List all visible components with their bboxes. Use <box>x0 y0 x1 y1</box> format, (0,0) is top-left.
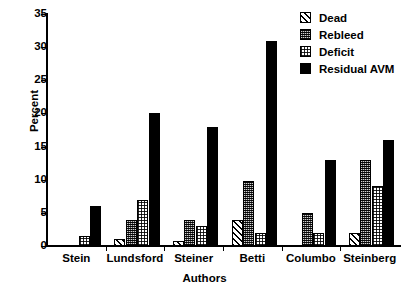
y-axis-tick-label-wrap: 20 <box>0 107 47 118</box>
legend-item-residual-avm[interactable]: Residual AVM <box>300 61 394 76</box>
y-axis-tick-label: 10 <box>13 174 47 185</box>
y-axis-tick-label: 15 <box>13 141 47 152</box>
y-axis-tick-label: 20 <box>13 107 47 118</box>
legend-swatch-icon-deficit <box>300 46 311 57</box>
bar-deficit-columbo <box>313 233 324 246</box>
bar-deficit-steiner <box>196 226 207 246</box>
bar-residual-avm-steiner <box>207 127 218 246</box>
bar-residual-avm-betti <box>266 41 277 246</box>
x-axis-tick <box>282 247 283 251</box>
legend-swatch-icon-rebleed <box>300 29 311 40</box>
bar-dead-lundsford <box>114 239 125 246</box>
x-axis-label-steinberg: Steinberg <box>334 252 405 264</box>
bar-rebleed-betti <box>243 181 254 246</box>
bar-rebleed-steinberg <box>360 160 371 246</box>
y-axis-tick-label: 35 <box>13 8 47 19</box>
y-axis-tick-label-wrap: 35 <box>0 8 47 19</box>
legend-label: Rebleed <box>319 29 364 41</box>
bar-residual-avm-lundsford <box>149 113 160 246</box>
y-axis-tick-label-wrap: 0 <box>0 240 47 251</box>
legend-swatch-icon-residual-avm <box>300 63 311 74</box>
y-axis-tick-label: 30 <box>13 41 47 52</box>
y-axis-tick-label-wrap: 5 <box>0 207 47 218</box>
x-axis-title: Authors <box>0 272 409 284</box>
y-axis-tick-label: 5 <box>13 207 47 218</box>
bar-residual-avm-stein <box>90 206 101 246</box>
y-axis-tick-label-wrap: 15 <box>0 141 47 152</box>
legend-label: Deficit <box>319 46 354 58</box>
bar-rebleed-lundsford <box>126 220 137 247</box>
bar-chart: Percent 05101520253035 SteinLundsfordSte… <box>0 0 409 291</box>
x-axis-tick <box>106 247 107 251</box>
legend-swatch-icon-dead <box>300 12 311 23</box>
x-axis-tick <box>164 247 165 251</box>
legend-item-deficit[interactable]: Deficit <box>300 44 394 59</box>
bar-deficit-stein <box>79 236 90 246</box>
bar-deficit-betti <box>255 233 266 246</box>
bar-deficit-lundsford <box>137 200 148 246</box>
y-axis-tick-label: 25 <box>13 74 47 85</box>
legend-item-dead[interactable]: Dead <box>300 10 394 25</box>
bar-rebleed-columbo <box>302 213 313 246</box>
y-axis-tick-label-wrap: 25 <box>0 74 47 85</box>
x-axis-tick <box>223 247 224 251</box>
legend-label: Dead <box>319 12 347 24</box>
bar-residual-avm-steinberg <box>383 140 394 246</box>
bar-dead-steinberg <box>349 233 360 246</box>
y-axis-tick-label-wrap: 30 <box>0 41 47 52</box>
bar-dead-betti <box>232 220 243 247</box>
bar-rebleed-steiner <box>184 220 195 247</box>
chart-legend: DeadRebleedDeficitResidual AVM <box>300 10 394 78</box>
legend-label: Residual AVM <box>319 63 394 75</box>
bar-residual-avm-columbo <box>325 160 336 246</box>
legend-item-rebleed[interactable]: Rebleed <box>300 27 394 42</box>
bar-dead-steiner <box>173 241 184 246</box>
bar-deficit-steinberg <box>372 186 383 246</box>
y-axis-tick-label: 0 <box>13 240 47 251</box>
x-axis-tick <box>340 247 341 251</box>
y-axis-tick-label-wrap: 10 <box>0 174 47 185</box>
